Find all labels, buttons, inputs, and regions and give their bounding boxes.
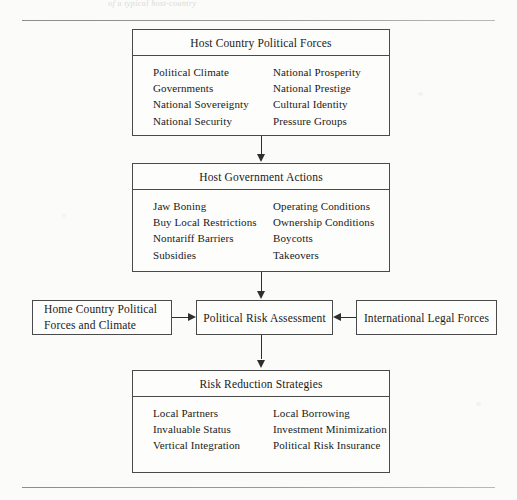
column-left: Jaw Boning Buy Local Restrictions Nontar…: [153, 198, 273, 263]
column-right: Local Borrowing Investment Minimization …: [273, 405, 387, 454]
column-left: Political Climate Governments National S…: [153, 64, 273, 129]
list-item: Local Borrowing: [273, 405, 387, 421]
list-item: Operating Conditions: [273, 198, 374, 214]
arrow-down-icon: [257, 154, 265, 162]
column-right: Operating Conditions Ownership Condition…: [273, 198, 374, 263]
list-item: National Prestige: [273, 80, 361, 96]
connector-line-legal-to-assessment: [341, 317, 357, 318]
list-item: Political Climate: [153, 64, 273, 80]
arrow-down-icon: [257, 360, 265, 368]
list-item: National Sovereignty: [153, 96, 273, 112]
box-host-country-political-forces-title: Host Country Political Forces: [133, 30, 389, 56]
box-host-government-actions-body: Jaw Boning Buy Local Restrictions Nontar…: [133, 190, 389, 273]
list-item: Investment Minimization: [273, 421, 387, 437]
box-risk-reduction-strategies-body: Local Partners Invaluable Status Vertica…: [133, 397, 389, 464]
list-item: Takeovers: [273, 247, 374, 263]
page-rule-top: [22, 20, 495, 21]
scan-artifact: [62, 214, 66, 217]
connector-line-assessment-to-strategies: [261, 335, 262, 359]
list-item: Political Risk Insurance: [273, 437, 387, 453]
list-item: Nontariff Barriers: [153, 230, 273, 246]
list-item: Vertical Integration: [153, 437, 273, 453]
column-left: Local Partners Invaluable Status Vertica…: [153, 405, 273, 454]
diagram-canvas: of a typical host-country Host Country P…: [0, 0, 517, 500]
column-right: National Prosperity National Prestige Cu…: [273, 64, 361, 129]
list-item: Boycotts: [273, 230, 374, 246]
box-international-legal-forces: International Legal Forces: [356, 300, 497, 335]
list-item: National Prosperity: [273, 64, 361, 80]
box-host-country-political-forces: Host Country Political Forces Political …: [132, 29, 390, 136]
list-item: Local Partners: [153, 405, 273, 421]
list-item: Subsidies: [153, 247, 273, 263]
list-item: Invaluable Status: [153, 421, 273, 437]
scan-artifact: [418, 92, 423, 96]
box-host-government-actions: Host Government Actions Jaw Boning Buy L…: [132, 163, 390, 272]
box-risk-reduction-strategies: Risk Reduction Strategies Local Partners…: [132, 370, 390, 473]
page-rule-bottom: [22, 487, 495, 488]
list-item: National Security: [153, 113, 273, 129]
connector-line-home-to-assessment: [172, 317, 188, 318]
list-item: Buy Local Restrictions: [153, 214, 273, 230]
scan-artifact: [476, 402, 481, 406]
box-host-country-political-forces-body: Political Climate Governments National S…: [133, 56, 389, 139]
arrow-right-icon: [188, 313, 196, 321]
list-item: Governments: [153, 80, 273, 96]
connector-line-actions-to-assessment: [261, 272, 262, 293]
list-item: Cultural Identity: [273, 96, 361, 112]
box-political-risk-assessment-title: Political Risk Assessment: [197, 312, 332, 324]
box-risk-reduction-strategies-title: Risk Reduction Strategies: [133, 371, 389, 397]
connector-line-forces-to-actions: [261, 136, 262, 156]
box-home-country-political-forces: Home Country Political Forces and Climat…: [32, 300, 172, 335]
box-political-risk-assessment: Political Risk Assessment: [196, 300, 333, 335]
list-item: Pressure Groups: [273, 113, 361, 129]
arrow-down-icon: [257, 291, 265, 299]
list-item: Jaw Boning: [153, 198, 273, 214]
box-home-country-political-forces-title: Home Country Political Forces and Climat…: [33, 302, 171, 333]
page-caption-ghost: of a typical host-country: [108, 0, 196, 8]
arrow-left-icon: [333, 313, 341, 321]
box-international-legal-forces-title: International Legal Forces: [357, 312, 496, 324]
box-host-government-actions-title: Host Government Actions: [133, 164, 389, 190]
list-item: Ownership Conditions: [273, 214, 374, 230]
